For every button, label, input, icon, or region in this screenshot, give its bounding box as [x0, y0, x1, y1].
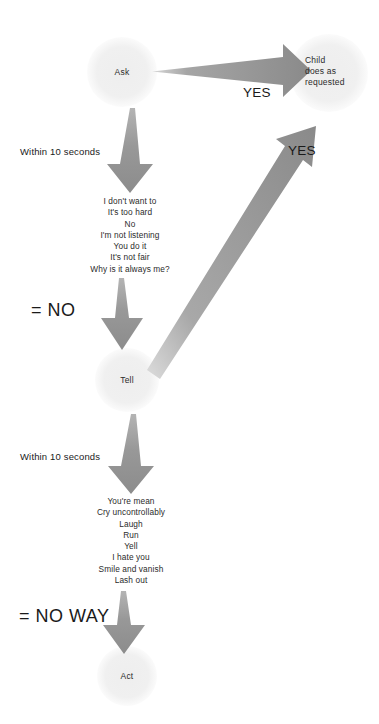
node-label-ask: Ask [92, 67, 152, 78]
node-label-child-line1: Child [305, 55, 325, 65]
arrow-tell-to-responses [108, 414, 154, 494]
verdict-label-no: = NO [31, 300, 76, 321]
node-label-act: Act [97, 671, 157, 682]
verdict-label-no-way: = NO WAY [19, 606, 110, 627]
arrow-responses-to-tell [101, 278, 143, 350]
response-list-after-ask: I don't want to It's too hard No I'm not… [44, 196, 216, 275]
node-label-child-line3: requested [305, 77, 345, 87]
arrow-ask-to-responses [107, 108, 153, 193]
response-list-after-tell: You're mean Cry uncontrollably Laugh Run… [45, 496, 217, 586]
node-label-tell: Tell [97, 375, 157, 386]
flowchart-canvas: Ask Childdoes asrequested Tell Act YES Y… [0, 0, 379, 724]
edge-label-yes-ask: YES [243, 85, 271, 100]
timing-label-after-ask: Within 10 seconds [20, 146, 100, 157]
edge-label-yes-tell: YES [288, 143, 316, 158]
timing-label-after-tell: Within 10 seconds [20, 451, 100, 462]
node-label-child: Childdoes asrequested [305, 55, 375, 88]
arrow-ask-to-child [152, 44, 311, 97]
node-label-child-line2: does as [305, 66, 336, 76]
